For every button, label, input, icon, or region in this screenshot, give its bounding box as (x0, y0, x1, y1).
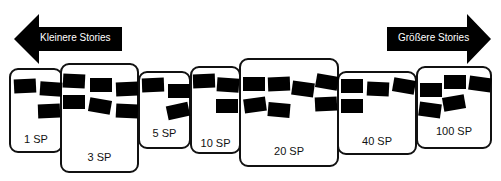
story-card (418, 102, 442, 119)
story-card (468, 76, 492, 93)
story-card (444, 75, 466, 89)
story-card (63, 73, 86, 88)
story-card (217, 77, 240, 93)
story-card (14, 78, 37, 93)
bucket-label: 5 SP (140, 127, 189, 139)
story-card (315, 96, 338, 111)
bucket-label: 1 SP (11, 133, 61, 145)
story-card (341, 99, 363, 113)
bucket-label: 3 SP (62, 151, 137, 163)
story-card (420, 83, 442, 97)
story-card (63, 95, 85, 109)
story-card (367, 81, 390, 96)
story-card (216, 99, 238, 113)
bucket-label: 40 SP (339, 135, 415, 147)
bucket-label: 10 SP (192, 137, 239, 149)
story-card (90, 78, 112, 92)
story-card (243, 77, 265, 91)
story-card (268, 77, 290, 92)
story-card (116, 103, 139, 118)
story-card (38, 104, 60, 119)
story-card (168, 84, 190, 98)
story-card (116, 82, 138, 97)
bucket-label: 20 SP (241, 145, 337, 157)
story-card (193, 74, 215, 89)
story-card (341, 79, 363, 93)
bucket-label: 100 SP (418, 125, 490, 137)
story-card (291, 81, 315, 98)
arrow-left-label: Kleinere Stories (40, 32, 111, 44)
story-card (142, 78, 164, 93)
arrow-right-label: Größere Stories (398, 32, 469, 44)
story-card (267, 102, 290, 118)
story-card (40, 81, 63, 97)
